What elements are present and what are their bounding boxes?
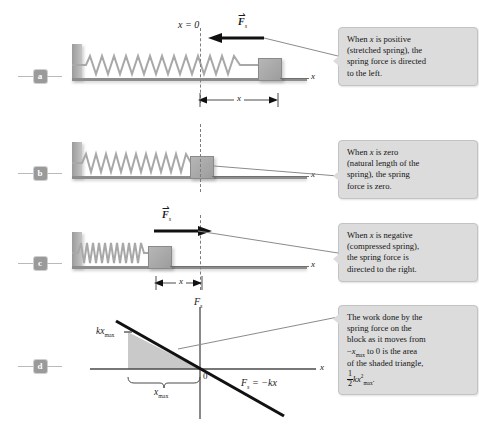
badge-rule-left bbox=[18, 173, 34, 174]
callout-d-line6: 1 2 kx2max. bbox=[347, 370, 470, 387]
callout-c: When x is negative (compressed spring), … bbox=[338, 223, 478, 282]
chart-xmax-sub: max bbox=[158, 393, 168, 399]
badge-rule-left bbox=[18, 263, 34, 264]
panel-d-badge: d bbox=[18, 358, 62, 374]
callout-a-line3: spring force is directed bbox=[347, 56, 470, 67]
zero-line-b bbox=[200, 124, 201, 192]
force-label-a: ⇀ Fs bbox=[238, 17, 247, 29]
callout-d-kx: kx bbox=[353, 375, 361, 385]
chart-origin-label: 0 bbox=[203, 372, 208, 381]
callout-c-line2: (compressed spring), bbox=[347, 241, 470, 252]
callout-b-line1: When x is zero bbox=[347, 147, 470, 158]
panel-c: c x ⇀ Fs x When x is negative (compresse… bbox=[0, 205, 479, 295]
chart-x-axis-label: x bbox=[320, 363, 324, 372]
force-sub-a: s bbox=[245, 22, 247, 29]
panel-c-badge: c bbox=[18, 255, 62, 271]
dimension-label-c: x bbox=[176, 277, 186, 286]
callout-c-line1: When x is negative bbox=[347, 230, 470, 241]
panel-a-badge-letter: a bbox=[34, 70, 47, 83]
badge-rule-right bbox=[47, 173, 63, 174]
chart-equation-rest: = −kx bbox=[250, 377, 277, 388]
badge-rule-right bbox=[47, 76, 63, 77]
callout-b-line4: force is zero. bbox=[347, 181, 470, 192]
callout-a-line2: (stretched spring), the bbox=[347, 45, 470, 56]
force-label-c: ⇀ Fs bbox=[162, 210, 171, 222]
callout-a-line1: When x is positive bbox=[347, 34, 470, 45]
leader-d bbox=[176, 315, 342, 355]
callout-d: The work done by the spring force on the… bbox=[338, 305, 478, 395]
badge-rule-left bbox=[18, 76, 34, 77]
chart-equation-label: Fs = −kx bbox=[241, 378, 277, 390]
callout-d-line3: block as it moves from bbox=[347, 334, 470, 345]
force-arrow-a bbox=[206, 32, 268, 44]
callout-a: When x is positive (stretched spring), t… bbox=[338, 27, 478, 86]
callout-d-line5: of the shaded triangle, bbox=[347, 358, 470, 369]
spring-b bbox=[72, 150, 202, 176]
callout-d-period: . bbox=[373, 375, 375, 385]
callout-b-line3: spring), the spring bbox=[347, 169, 470, 180]
chart-xmax-label: xmax bbox=[154, 388, 168, 400]
dimension-label-a: x bbox=[234, 94, 244, 103]
panel-b: b x When x is zero (natural length of th… bbox=[0, 120, 479, 205]
callout-d-line4: −xmax to 0 is the area bbox=[347, 346, 470, 359]
callout-d-line4-post: to 0 is the area bbox=[365, 346, 417, 356]
badge-rule-right bbox=[47, 366, 63, 367]
callout-a-line4: to the left. bbox=[347, 68, 470, 79]
zero-label-text: x = 0 bbox=[178, 19, 199, 30]
panel-b-badge: b bbox=[18, 165, 62, 181]
spring-a bbox=[72, 52, 262, 78]
x-axis-a bbox=[280, 78, 309, 79]
callout-d-xmax-sub: max bbox=[356, 351, 365, 357]
panel-b-badge-letter: b bbox=[34, 167, 47, 180]
chart-y-axis-sub: s bbox=[200, 302, 202, 309]
leader-b bbox=[212, 160, 342, 182]
callout-d-tip bbox=[333, 314, 339, 324]
x-axis-c bbox=[170, 266, 309, 267]
panel-a-badge: a bbox=[18, 68, 62, 84]
chart-ytick-label: kxmax bbox=[96, 327, 115, 339]
callout-c-line3: the spring force is bbox=[347, 252, 470, 263]
callout-b-tip bbox=[333, 171, 339, 181]
badge-rule-left bbox=[18, 366, 34, 367]
callout-c-line4: directed to the right. bbox=[347, 264, 470, 275]
x-axis-label-c: x bbox=[311, 260, 315, 269]
callout-d-sup: 2 bbox=[361, 374, 364, 380]
callout-a-tip bbox=[333, 56, 339, 66]
zero-label-a: x = 0 bbox=[178, 20, 199, 30]
leader-c bbox=[196, 227, 342, 259]
callout-d-line1: The work done by the bbox=[347, 312, 470, 323]
callout-b-line2: (natural length of the bbox=[347, 158, 470, 169]
chart-xmax-brace bbox=[128, 377, 200, 388]
panel-c-badge-letter: c bbox=[34, 257, 47, 270]
panel-d: d Fs x 0 kxmax xmax Fs = −kx bbox=[0, 295, 479, 424]
block-b bbox=[190, 156, 214, 179]
panel-a: a x x = 0 ⇀ Fs x bbox=[0, 0, 479, 120]
chart-y-axis-label: Fs bbox=[194, 297, 203, 309]
leader-a bbox=[262, 30, 342, 62]
callout-d-line2: spring force on the bbox=[347, 323, 470, 334]
callout-c-tip bbox=[333, 254, 339, 264]
callout-d-sub: max bbox=[363, 380, 372, 386]
block-c bbox=[148, 246, 172, 269]
badge-rule-right bbox=[47, 263, 63, 264]
force-sub-c: s bbox=[169, 215, 171, 222]
chart-ytick-sub: max bbox=[104, 332, 114, 338]
callout-b: When x is zero (natural length of the sp… bbox=[338, 140, 478, 199]
panel-d-badge-letter: d bbox=[34, 360, 47, 373]
x-axis-label-a: x bbox=[311, 72, 315, 81]
